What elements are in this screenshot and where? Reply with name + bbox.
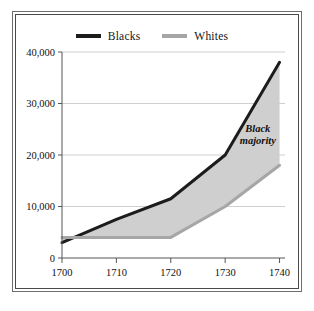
y-tick-label: 10,000 [26,201,55,212]
x-tick-label: 1730 [215,267,236,278]
legend-label-whites: Whites [194,30,228,42]
chart-legend: Blacks Whites [57,27,247,45]
x-tick-label: 1710 [106,267,127,278]
black-majority-band [62,62,280,242]
figure-root: Blacks Whites 010,00020,00030,00040,000 … [0,0,314,311]
chart-svg: 010,00020,00030,00040,000 17001710172017… [22,46,290,286]
legend-item-whites: Whites [162,30,228,42]
x-tick-label: 1740 [269,267,290,278]
legend-item-blacks: Blacks [76,30,141,42]
black-majority-label-line2: majority [240,135,277,146]
x-tick-label: 1720 [160,267,181,278]
y-tick-label: 0 [50,253,55,264]
y-tick-label: 40,000 [26,47,55,58]
legend-swatch-whites-icon [162,34,187,38]
y-tick-label: 30,000 [26,98,55,109]
legend-label-blacks: Blacks [108,30,141,42]
y-tick-labels-group: 010,00020,00030,00040,000 [26,47,55,264]
x-tick-label: 1700 [52,267,73,278]
y-tick-label: 20,000 [26,150,55,161]
fill-between-band [62,62,280,242]
legend-swatch-blacks-icon [76,34,101,38]
plot-area: 010,00020,00030,00040,000 17001710172017… [22,46,290,286]
x-tick-labels-group: 17001710172017301740 [52,267,291,278]
black-majority-label-line1: Black [244,123,271,134]
